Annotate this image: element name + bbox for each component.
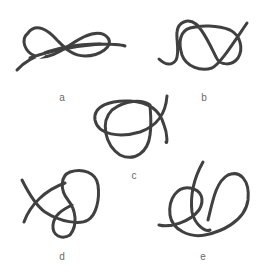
knot-e [159,162,248,236]
knot-label-c: c [132,170,137,181]
knot-label-a: a [59,92,65,103]
knot-label-d: d [59,251,65,262]
knot-a [17,28,125,70]
knot-c [95,96,167,157]
knot-b [159,21,247,69]
knot-label-e: e [200,251,206,262]
knot-label-b: b [201,92,207,103]
knot-d [22,171,99,238]
knot-diagram-canvas [0,0,267,278]
